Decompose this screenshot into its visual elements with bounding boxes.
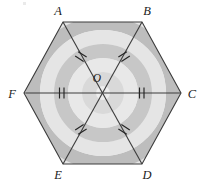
- vertex-label-A: A: [53, 4, 62, 18]
- center-label-O: O: [93, 72, 102, 84]
- hexagon-diagram-svg: A B C D E F O: [0, 0, 205, 186]
- vertex-label-C: C: [188, 87, 197, 101]
- vertex-label-E: E: [53, 168, 62, 182]
- vertex-label-F: F: [7, 87, 16, 101]
- corner-speck-artifact: [23, 2, 26, 5]
- vertex-label-B: B: [143, 4, 151, 18]
- hexagon-figure: A B C D E F O: [0, 0, 205, 186]
- vertex-label-D: D: [141, 168, 151, 182]
